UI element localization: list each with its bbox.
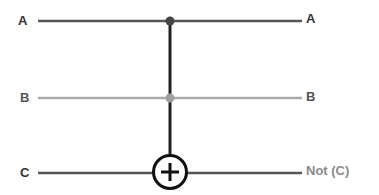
input-label-b: B (20, 91, 29, 105)
control-dot-b (166, 94, 175, 103)
xor-target-icon (154, 156, 187, 189)
input-label-a: A (18, 14, 27, 28)
output-label-b: B (306, 90, 315, 104)
input-label-c: C (20, 166, 29, 180)
output-label-not-c: Not (C) (306, 164, 349, 178)
control-dot-a (166, 17, 175, 26)
output-label-a: A (306, 12, 315, 26)
